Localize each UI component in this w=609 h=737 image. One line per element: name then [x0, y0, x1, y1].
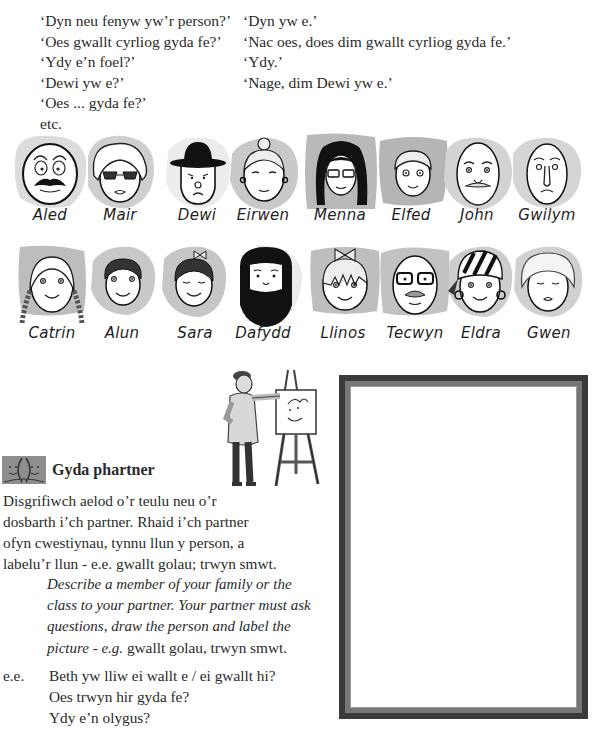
two-faces-icon [2, 456, 46, 484]
question-line: etc. [40, 114, 231, 135]
face-label: Alun [105, 324, 140, 342]
question-line: ‘Ydy e’n foel?’ [40, 52, 231, 73]
face-alun-icon [88, 243, 158, 319]
face-label: Aled [33, 206, 67, 224]
question-line: ‘Oes ... gyda fe?’ [40, 93, 231, 114]
question-line: ‘Oes gwallt cyrliog gyda fe?’ [40, 32, 231, 53]
drawing-frame[interactable] [339, 375, 588, 719]
answer-line: ‘Nac oes, does dim gwallt cyrliog gyda f… [243, 32, 511, 53]
face-eldra-icon [442, 243, 518, 323]
instruction-line: ofyn cwestiynau, tynnu llun y person, a [3, 532, 277, 553]
face-label: Catrin [28, 324, 75, 342]
face-label: Sara [177, 324, 212, 342]
example-label: e.e. [3, 665, 24, 686]
face-label: Eirwen [237, 206, 290, 224]
face-elfed-icon [376, 133, 450, 209]
face-label: Menna [314, 206, 366, 224]
face-label: Gwilym [518, 206, 576, 224]
instruction-line: labelu’r llun - e.e. gwallt golau; trwyn… [3, 553, 277, 574]
face-label: Dafydd [235, 324, 291, 342]
face-label: Mair [103, 206, 137, 224]
english-instructions: Describe a member of your family or the … [47, 574, 311, 659]
example-line: Oes trwyn hir gyda fe? [49, 686, 275, 707]
dialogue-questions: ‘Dyn neu fenyw yw’r person?’ ‘Oes gwallt… [40, 11, 231, 135]
translation-line: picture - e.g. gwallt golau, trwyn smwt. [47, 637, 311, 659]
instruction-line: dosbarth i’ch partner. Rhaid i’ch partne… [3, 511, 277, 532]
face-menna-icon [303, 131, 379, 211]
dialogue-answers: ‘Dyn yw e.’ ‘Nac oes, does dim gwallt cy… [243, 11, 511, 93]
question-line: ‘Dyn neu fenyw yw’r person?’ [40, 11, 231, 32]
answer-line: ‘Dyn yw e.’ [243, 11, 511, 32]
question-line: ‘Dewi yw e?’ [40, 73, 231, 94]
answer-line: ‘Nage, dim Dewi yw e.’ [243, 73, 511, 94]
face-gwilym-icon [509, 134, 585, 210]
face-label: Gwen [527, 324, 571, 342]
answer-line: ‘Ydy.’ [243, 52, 511, 73]
translation-line: questions, draw the person and label the [47, 616, 311, 637]
example-line: Beth yw lliw ei wallt e / ei gwallt hi? [49, 665, 275, 686]
face-sara-icon [158, 243, 230, 321]
drawing-area[interactable] [353, 388, 575, 706]
translation-line: Describe a member of your family or the [47, 574, 311, 595]
face-label: Dewi [178, 206, 216, 224]
face-john-icon [441, 132, 515, 212]
face-label: John [460, 206, 494, 224]
example-questions: Beth yw lliw ei wallt e / ei gwallt hi? … [49, 665, 275, 728]
face-gwen-icon [510, 243, 586, 321]
face-dafydd-icon [228, 243, 304, 329]
face-aled-icon [12, 134, 88, 210]
face-catrin-icon [12, 243, 92, 329]
face-dewi-icon [162, 134, 234, 210]
face-label: Tecwyn [386, 324, 443, 342]
artist-painting-at-easel-icon [218, 366, 330, 496]
instruction-line: Disgrifiwch aelod o’r teulu neu o’r [3, 490, 277, 511]
partner-heading: Gyda phartner [52, 461, 155, 479]
example-line: Ydy e’n olygus? [49, 707, 275, 728]
face-mair-icon [84, 134, 156, 210]
face-label: Eldra [461, 324, 501, 342]
face-llinos-icon [307, 243, 383, 319]
translation-line: class to your partner. Your partner must… [47, 595, 311, 616]
face-eirwen-icon [228, 134, 300, 210]
face-label: Elfed [391, 206, 430, 224]
welsh-instructions: Disgrifiwch aelod o’r teulu neu o’r dosb… [3, 490, 277, 574]
face-label: Llinos [321, 324, 366, 342]
partner-heading-row: Gyda phartner [2, 456, 155, 484]
